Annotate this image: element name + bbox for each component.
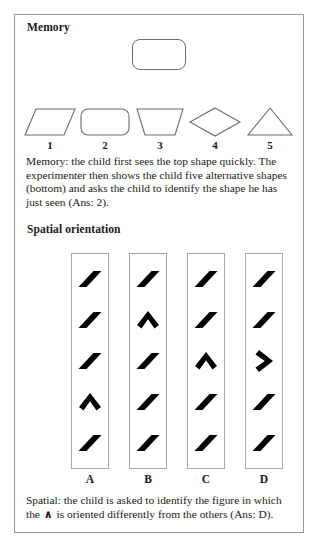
chevron-up-icon <box>75 387 105 417</box>
memory-option-label: 2 <box>78 139 132 151</box>
memory-target-stimulus <box>15 39 303 74</box>
spatial-column-box <box>129 253 167 469</box>
memory-caption: Memory: the child first sees the top sha… <box>26 155 294 209</box>
memory-option-1[interactable]: 1 <box>23 103 77 151</box>
spatial-column-label: A <box>71 473 109 485</box>
slash-icon <box>75 428 105 458</box>
rounded-rectangle-shape <box>132 39 186 70</box>
spatial-columns-row: ABCD <box>71 253 283 485</box>
slash-icon <box>249 428 279 458</box>
spatial-section-heading: Spatial orientation <box>27 223 121 235</box>
rounded-rectangle-shape <box>78 103 132 137</box>
memory-option-label: 1 <box>23 139 77 151</box>
memory-section-heading: Memory <box>27 21 70 33</box>
chevron-up-icon <box>133 305 163 335</box>
spatial-column-box <box>71 253 109 469</box>
chevron-right-icon <box>249 346 279 376</box>
slash-icon <box>133 346 163 376</box>
slash-icon <box>249 305 279 335</box>
memory-option-label: 5 <box>243 139 297 151</box>
spatial-column-label: C <box>187 473 225 485</box>
slash-icon <box>191 428 221 458</box>
figure-frame: Memory 1 2 <box>14 14 304 533</box>
parallelogram-shape <box>23 103 77 137</box>
slash-icon <box>191 264 221 294</box>
slash-icon <box>249 264 279 294</box>
spatial-column-box <box>187 253 225 469</box>
triangle-shape <box>243 103 297 137</box>
spatial-caption: Spatial: the child is asked to identify … <box>26 494 298 521</box>
spatial-column-c[interactable]: C <box>187 253 225 485</box>
chevron-up-icon <box>191 346 221 376</box>
slash-icon <box>133 387 163 417</box>
spatial-caption-text-after: is oriented differently from the others … <box>57 508 274 520</box>
chevron-up-icon: ∧ <box>43 508 54 520</box>
spatial-column-d[interactable]: D <box>245 253 283 485</box>
memory-option-label: 3 <box>133 139 187 151</box>
memory-option-2[interactable]: 2 <box>78 103 132 151</box>
spatial-column-label: B <box>129 473 167 485</box>
trapezoid-shape <box>133 103 187 137</box>
slash-icon <box>191 387 221 417</box>
slash-icon <box>191 305 221 335</box>
slash-icon <box>133 428 163 458</box>
spatial-column-b[interactable]: B <box>129 253 167 485</box>
slash-icon <box>75 264 105 294</box>
memory-option-4[interactable]: 4 <box>188 103 242 151</box>
slash-icon <box>133 264 163 294</box>
memory-option-3[interactable]: 3 <box>133 103 187 151</box>
spatial-column-label: D <box>245 473 283 485</box>
slash-icon <box>75 346 105 376</box>
diamond-shape <box>188 103 242 137</box>
spatial-column-box <box>245 253 283 469</box>
memory-option-5[interactable]: 5 <box>243 103 297 151</box>
slash-icon <box>75 305 105 335</box>
slash-icon <box>249 387 279 417</box>
spatial-column-a[interactable]: A <box>71 253 109 485</box>
memory-option-label: 4 <box>188 139 242 151</box>
memory-alternatives-row: 1 2 3 4 <box>23 103 297 151</box>
